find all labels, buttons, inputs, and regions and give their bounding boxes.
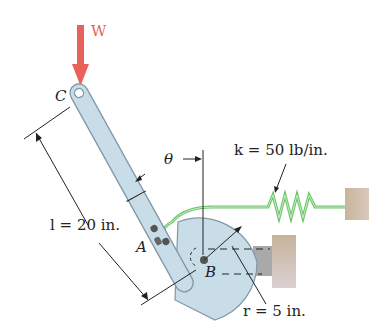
point-c-label: C	[55, 87, 66, 105]
statics-diagram: W C θ k = 50 lb/in. l = 20 in. A B r = 5…	[0, 0, 386, 328]
spring-constant-label: k = 50 lb/in.	[234, 141, 328, 159]
length-label: l = 20 in.	[50, 216, 120, 234]
load-arrow-icon	[72, 25, 89, 86]
load-label: W	[91, 22, 106, 40]
point-b-label: B	[205, 263, 216, 281]
diagram-graphics	[0, 0, 386, 328]
angle-label: θ	[164, 150, 173, 168]
point-a-label: A	[136, 238, 147, 256]
lever-arm	[65, 80, 198, 296]
radius-label: r = 5 in.	[243, 302, 306, 320]
spring-support-block	[345, 188, 369, 220]
bearing-support-block	[272, 235, 296, 288]
